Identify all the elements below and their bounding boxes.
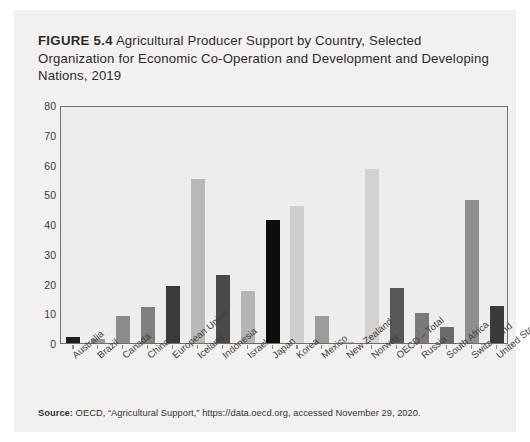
plot-area [60, 106, 508, 344]
bar [465, 200, 479, 343]
y-axis-tick-label: 30 [30, 249, 56, 261]
y-axis-tick-labels: 01020304050607080 [26, 106, 56, 344]
bar [266, 220, 280, 343]
y-axis-tick-label: 80 [30, 100, 56, 112]
bar [191, 179, 205, 343]
figure-number: FIGURE 5.4 [38, 33, 113, 48]
bar [66, 337, 80, 343]
y-axis-tick-label: 70 [30, 130, 56, 142]
source-text: OECD, “Agricultural Support,” https://da… [73, 408, 421, 418]
y-axis-tick-label: 40 [30, 219, 56, 231]
source-note: Source: OECD, “Agricultural Support,” ht… [38, 408, 498, 418]
source-label: Source: [38, 408, 73, 418]
y-axis-tick-label: 10 [30, 308, 56, 320]
figure-title: FIGURE 5.4 Agricultural Producer Support… [38, 32, 494, 85]
y-axis-tick-label: 20 [30, 279, 56, 291]
bar [365, 169, 379, 343]
bar [116, 316, 130, 343]
bar [166, 286, 180, 343]
x-axis-tick-labels: AustraliaBrazilCanadaChinaEuropean Union… [60, 346, 508, 406]
bar [290, 206, 304, 343]
figure-card: FIGURE 5.4 Agricultural Producer Support… [14, 10, 516, 432]
y-axis-tick-label: 50 [30, 189, 56, 201]
y-axis-tick-label: 60 [30, 160, 56, 172]
y-axis-tick-label: 0 [30, 338, 56, 350]
